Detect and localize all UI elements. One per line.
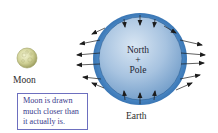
north-pole-label: North + Pole: [112, 45, 164, 75]
note-line-3: it actually is.: [23, 117, 84, 128]
note-line-2: much closer than: [23, 107, 84, 118]
moon-icon: [17, 48, 37, 68]
north-pole-line-2: +: [112, 55, 164, 65]
north-pole-line-1: North: [112, 45, 164, 55]
north-pole-line-3: Pole: [112, 65, 164, 75]
earth-label: Earth: [126, 111, 147, 121]
note-line-1: Moon is drawn: [23, 96, 84, 107]
moon: [17, 48, 37, 68]
moon-label: Moon: [13, 75, 36, 85]
note-box: Moon is drawn much closer than it actual…: [17, 93, 88, 130]
